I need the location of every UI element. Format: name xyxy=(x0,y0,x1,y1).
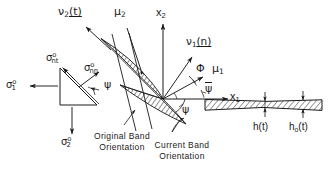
label-x1-axis: x1 xyxy=(230,91,240,104)
label-h-of-t: h(t) xyxy=(253,122,268,132)
label-sigma-nn: σonn xyxy=(84,62,98,74)
label-mu1: μ1 xyxy=(212,63,224,76)
label-x2-axis: x2 xyxy=(156,7,166,20)
label-mu2: μ2 xyxy=(114,6,126,19)
shear-band-diagram: ν2(t) μ2 x2 ν1(n) μ1 x1 Φ ψ ψ σont σonn … xyxy=(0,0,328,177)
vector-nu2-arrow xyxy=(86,27,111,50)
vector-nu1-arrow xyxy=(163,57,192,99)
vector-mu1-arrow xyxy=(163,77,203,99)
label-nu1: ν1(n) xyxy=(186,36,211,48)
label-sigma-nt: σont xyxy=(46,52,59,64)
label-angle-phi: Φ xyxy=(196,63,205,74)
necked-bar-element xyxy=(205,91,322,118)
label-sigma-1: σo1 xyxy=(6,79,16,91)
shear-band-lens xyxy=(101,39,186,125)
caption-current-band-line2: Orientation xyxy=(146,151,218,162)
caption-current-band-line1: Current Band xyxy=(146,140,218,151)
label-angle-psi-bar: ψ xyxy=(205,82,212,94)
label-nu2: ν2(t) xyxy=(58,6,82,19)
label-sigma-2: σo2 xyxy=(61,136,71,148)
label-angle-psi-band: ψ xyxy=(182,104,189,115)
stress-triangle-element xyxy=(30,68,99,135)
caption-current-band-orientation: Current Band Orientation xyxy=(146,140,218,162)
label-angle-psi-triangle: ψ xyxy=(104,79,111,90)
label-h0-of-t: ho(t) xyxy=(289,122,308,134)
